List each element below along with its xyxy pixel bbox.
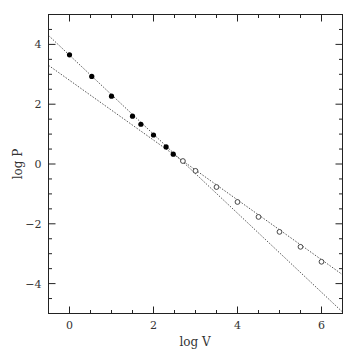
open-data-point xyxy=(319,259,324,264)
open-data-point xyxy=(214,185,219,190)
filled-data-point xyxy=(164,144,169,149)
filled-data-point xyxy=(138,122,143,127)
open-data-point xyxy=(256,215,261,220)
filled-data-point xyxy=(67,52,72,57)
x-tick-label: 0 xyxy=(66,319,73,332)
filled-data-point xyxy=(151,132,156,137)
axis-ticks xyxy=(49,15,343,314)
y-axis-label: log P xyxy=(11,149,25,180)
y-tick-label: 0 xyxy=(35,158,42,171)
open-data-point xyxy=(193,168,198,173)
x-tick-label: 6 xyxy=(318,319,325,332)
chart: 0246 −4−2024 log V log P xyxy=(0,0,352,355)
x-tick-labels: 0246 xyxy=(66,319,325,332)
y-tick-label: 2 xyxy=(35,98,42,111)
x-tick-label: 4 xyxy=(234,319,241,332)
open-data-point xyxy=(181,159,186,164)
open-data-point xyxy=(277,229,282,234)
open-data-point xyxy=(235,200,240,205)
filled-data-point xyxy=(89,74,94,79)
y-tick-label: 4 xyxy=(35,38,42,51)
data-points xyxy=(67,52,324,264)
filled-data-point xyxy=(109,94,114,99)
y-tick-label: −4 xyxy=(25,278,41,291)
open-data-point xyxy=(298,244,303,249)
y-tick-labels: −4−2024 xyxy=(25,38,41,290)
x-tick-label: 2 xyxy=(150,319,157,332)
filled-data-point xyxy=(130,114,135,119)
plot-frame xyxy=(49,15,343,314)
x-axis-label: log V xyxy=(179,335,211,349)
filled-data-point xyxy=(171,152,176,157)
y-tick-label: −2 xyxy=(25,218,41,231)
